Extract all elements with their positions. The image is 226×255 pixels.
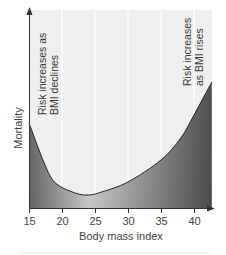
x-tick-label: 15 xyxy=(23,215,35,227)
x-tick-label: 30 xyxy=(122,215,134,227)
annotation-right-line2: as BMI rises xyxy=(193,28,205,86)
annotation-left-line1: Risk increases as xyxy=(36,33,48,115)
y-axis-label: Mortality xyxy=(12,107,24,149)
annotation-left-line2: BMI declines xyxy=(48,55,60,115)
x-tick-label: 35 xyxy=(155,215,167,227)
x-tick-label: 20 xyxy=(56,215,68,227)
x-tick-label: 25 xyxy=(89,215,101,227)
x-axis-ticks: 152025303540 xyxy=(23,208,200,227)
bmi-mortality-chart: Risk increases as BMI declines Risk incr… xyxy=(0,0,226,255)
annotation-right-line1: Risk increases xyxy=(181,18,193,86)
x-axis-label: Body mass index xyxy=(79,230,163,242)
x-tick-label: 40 xyxy=(188,215,200,227)
